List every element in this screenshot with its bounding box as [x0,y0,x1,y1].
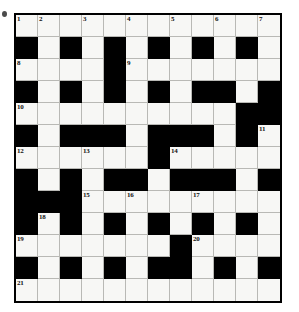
crossword-cell[interactable] [104,279,126,301]
crossword-cell[interactable] [148,59,170,81]
crossword-cell[interactable] [38,257,60,279]
crossword-cell[interactable] [38,125,60,147]
crossword-cell[interactable] [258,213,280,235]
crossword-cell[interactable] [236,235,258,257]
crossword-cell[interactable] [170,37,192,59]
crossword-cell[interactable] [192,15,214,37]
crossword-cell[interactable]: 17 [192,191,214,213]
crossword-cell[interactable] [170,103,192,125]
crossword-cell[interactable] [60,279,82,301]
crossword-cell[interactable] [170,279,192,301]
crossword-cell[interactable] [126,257,148,279]
crossword-cell[interactable] [38,169,60,191]
crossword-cell[interactable] [38,59,60,81]
crossword-cell[interactable] [192,279,214,301]
crossword-cell[interactable] [104,103,126,125]
crossword-cell[interactable] [148,169,170,191]
crossword-cell[interactable]: 19 [16,235,38,257]
crossword-cell[interactable] [82,257,104,279]
crossword-cell[interactable]: 8 [16,59,38,81]
crossword-cell[interactable] [104,147,126,169]
crossword-cell[interactable] [60,59,82,81]
crossword-cell[interactable] [214,279,236,301]
crossword-cell[interactable] [258,147,280,169]
crossword-cell[interactable] [82,235,104,257]
crossword-cell[interactable] [82,37,104,59]
crossword-cell[interactable] [236,169,258,191]
crossword-cell[interactable]: 2 [38,15,60,37]
crossword-cell[interactable] [236,191,258,213]
crossword-cell[interactable]: 6 [214,15,236,37]
crossword-cell[interactable]: 5 [170,15,192,37]
crossword-cell[interactable]: 13 [82,147,104,169]
crossword-cell[interactable]: 15 [82,191,104,213]
crossword-cell[interactable]: 21 [16,279,38,301]
crossword-cell[interactable] [258,59,280,81]
crossword-cell[interactable] [104,191,126,213]
crossword-cell[interactable] [170,213,192,235]
crossword-cell[interactable] [60,15,82,37]
crossword-cell[interactable] [126,103,148,125]
crossword-cell[interactable]: 16 [126,191,148,213]
crossword-cell[interactable] [214,37,236,59]
crossword-cell[interactable] [104,15,126,37]
crossword-cell[interactable] [38,103,60,125]
crossword-cell[interactable] [82,59,104,81]
crossword-cell[interactable] [214,191,236,213]
crossword-cell[interactable] [60,103,82,125]
crossword-cell[interactable] [126,235,148,257]
crossword-cell[interactable] [214,125,236,147]
crossword-cell[interactable] [38,81,60,103]
crossword-cell[interactable] [258,279,280,301]
crossword-cell[interactable] [148,15,170,37]
crossword-cell[interactable] [214,235,236,257]
crossword-cell[interactable] [236,59,258,81]
crossword-cell[interactable] [126,37,148,59]
crossword-cell[interactable] [192,103,214,125]
crossword-cell[interactable]: 4 [126,15,148,37]
crossword-cell[interactable] [126,279,148,301]
crossword-cell[interactable]: 12 [16,147,38,169]
crossword-cell[interactable] [214,59,236,81]
crossword-cell[interactable] [192,257,214,279]
crossword-cell[interactable] [60,235,82,257]
crossword-cell[interactable]: 1 [16,15,38,37]
crossword-cell[interactable] [38,235,60,257]
crossword-cell[interactable] [236,257,258,279]
crossword-cell[interactable] [258,191,280,213]
crossword-cell[interactable]: 20 [192,235,214,257]
crossword-cell[interactable] [236,147,258,169]
crossword-cell[interactable] [170,191,192,213]
crossword-cell[interactable] [126,125,148,147]
crossword-grid[interactable]: 123456789101112131415161718192021 [14,13,282,303]
crossword-cell[interactable]: 18 [38,213,60,235]
crossword-cell[interactable] [82,103,104,125]
crossword-cell[interactable] [82,279,104,301]
crossword-cell[interactable]: 10 [16,103,38,125]
crossword-cell[interactable] [126,213,148,235]
crossword-cell[interactable] [104,235,126,257]
crossword-cell[interactable] [236,279,258,301]
crossword-cell[interactable] [258,37,280,59]
crossword-cell[interactable]: 14 [170,147,192,169]
crossword-cell[interactable]: 9 [126,59,148,81]
crossword-cell[interactable] [82,81,104,103]
crossword-cell[interactable] [126,147,148,169]
crossword-cell[interactable] [192,59,214,81]
crossword-cell[interactable] [38,147,60,169]
crossword-cell[interactable] [148,279,170,301]
crossword-cell[interactable] [148,191,170,213]
crossword-cell[interactable] [38,37,60,59]
crossword-cell[interactable] [38,279,60,301]
crossword-cell[interactable] [126,81,148,103]
crossword-cell[interactable]: 7 [258,15,280,37]
crossword-cell[interactable]: 11 [258,125,280,147]
crossword-cell[interactable] [170,81,192,103]
crossword-cell[interactable] [258,235,280,257]
crossword-cell[interactable] [236,81,258,103]
crossword-cell[interactable] [214,213,236,235]
crossword-cell[interactable] [82,169,104,191]
crossword-cell[interactable] [214,147,236,169]
crossword-cell[interactable]: 3 [82,15,104,37]
crossword-cell[interactable] [214,103,236,125]
